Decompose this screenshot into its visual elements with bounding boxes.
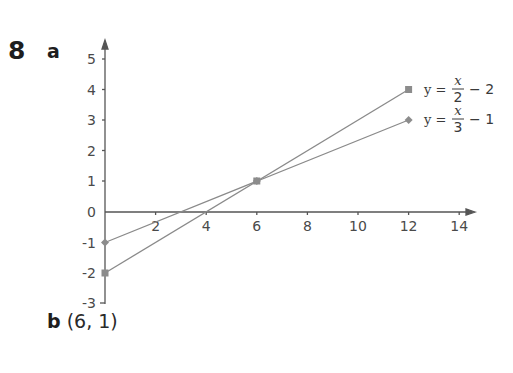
- legend-label-series-1: y = x 2 − 2: [423, 73, 494, 105]
- y-axis-arrow-icon: [102, 40, 108, 49]
- legend-equation-suffix: − 2: [469, 81, 494, 97]
- legend-fraction-numerator: x: [454, 73, 462, 88]
- intersection-answer: (6, 1): [67, 310, 118, 332]
- y-tick-label: 2: [87, 143, 96, 159]
- diamond-marker-icon: [101, 239, 109, 247]
- legend-fraction-denominator: 3: [454, 119, 463, 135]
- y-tick-label: -2: [82, 265, 96, 281]
- x-axis-arrow-icon: [466, 209, 475, 215]
- square-marker-icon: [405, 86, 412, 93]
- y-tick-label: 4: [87, 82, 96, 98]
- legend-equation-prefix: y =: [423, 82, 446, 97]
- y-tick-label: -1: [82, 235, 96, 251]
- x-tick-label: 4: [202, 218, 211, 234]
- legend-equation-suffix: − 1: [469, 111, 494, 127]
- legend-equation-prefix: y =: [423, 112, 446, 127]
- y-tick-label: 1: [87, 173, 96, 189]
- legend-fraction-numerator: x: [454, 103, 462, 118]
- x-tick-label: 12: [400, 218, 418, 234]
- x-tick-label: 10: [349, 218, 367, 234]
- part-b-answer: b (6, 1): [47, 310, 118, 332]
- diamond-marker-icon: [405, 116, 413, 124]
- part-b-label: b: [47, 310, 61, 332]
- axes: [100, 40, 475, 304]
- square-marker-icon: [102, 270, 109, 277]
- y-tick-label: 3: [87, 112, 96, 128]
- y-tick-label: 5: [87, 51, 96, 67]
- y-tick-labels: 5 4 3 2 1 0 -1 -2 -3: [82, 51, 96, 311]
- legend-label-series-2: y = x 3 − 1: [423, 103, 494, 135]
- x-tick-labels: 2 4 6 8 10 12 14: [151, 218, 468, 234]
- x-tick-label: 8: [303, 218, 312, 234]
- y-tick-label: -3: [82, 295, 96, 311]
- x-tick-label: 14: [450, 218, 468, 234]
- y-tick-label: 0: [87, 204, 96, 220]
- x-tick-label: 6: [252, 218, 261, 234]
